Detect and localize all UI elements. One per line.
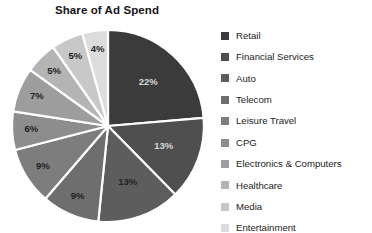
legend-item-label: Media	[236, 202, 262, 212]
pie-slice-value-label: 5%	[68, 50, 82, 61]
legend-item-label: Electronics & Computers	[236, 159, 342, 169]
legend-item-label: Auto	[236, 74, 256, 84]
legend-swatch-icon	[221, 139, 229, 147]
legend-item[interactable]: Entertainment	[221, 218, 372, 233]
legend-item-label: Healthcare	[236, 181, 282, 191]
legend-item-label: Financial Services	[236, 52, 314, 62]
legend-item[interactable]: Auto	[221, 68, 372, 89]
legend-swatch-icon	[221, 53, 229, 61]
chart-legend: RetailFinancial ServicesAutoTelecomLeisu…	[221, 25, 372, 233]
legend-swatch-icon	[221, 160, 229, 168]
legend-swatch-icon	[221, 224, 229, 232]
legend-swatch-icon	[221, 32, 229, 40]
page-title: Share of Ad Spend	[0, 4, 214, 16]
legend-item[interactable]: Electronics & Computers	[221, 153, 372, 174]
legend-item[interactable]: Financial Services	[221, 46, 372, 67]
legend-item[interactable]: Telecom	[221, 89, 372, 110]
legend-item-label: Telecom	[236, 95, 272, 105]
legend-item[interactable]: CPG	[221, 132, 372, 153]
legend-item-label: Retail	[236, 31, 261, 41]
legend-item[interactable]: Healthcare	[221, 175, 372, 196]
legend-swatch-icon	[221, 74, 229, 82]
legend-item[interactable]: Retail	[221, 25, 372, 46]
legend-item[interactable]: Leisure Travel	[221, 111, 372, 132]
pie-slice-value-label: 13%	[154, 140, 174, 151]
legend-item-label: Leisure Travel	[236, 116, 296, 126]
pie-chart: 22%13%13%9%9%6%7%5%5%4%	[0, 20, 214, 233]
legend-item-label: CPG	[236, 138, 257, 148]
legend-item-label: Entertainment	[236, 223, 296, 233]
legend-swatch-icon	[221, 181, 229, 189]
legend-swatch-icon	[221, 203, 229, 211]
pie-slice-value-label: 13%	[118, 176, 138, 187]
legend-swatch-icon	[221, 96, 229, 104]
pie-slice-value-label: 7%	[30, 90, 44, 101]
pie-chart-svg: 22%13%13%9%9%6%7%5%5%4%	[0, 20, 214, 233]
pie-slice-value-label: 5%	[47, 65, 61, 76]
pie-slice-value-label: 9%	[36, 160, 50, 171]
legend-swatch-icon	[221, 117, 229, 125]
pie-slice-group	[12, 30, 204, 222]
pie-slice-value-label: 9%	[71, 190, 85, 201]
pie-slice-value-label: 4%	[91, 43, 105, 54]
pie-slice-value-label: 22%	[139, 76, 159, 87]
pie-slice-value-label: 6%	[24, 123, 38, 134]
legend-item[interactable]: Media	[221, 196, 372, 217]
